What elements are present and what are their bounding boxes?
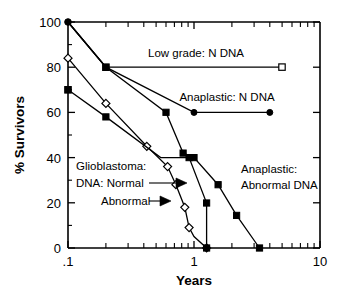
chart-svg: 100 80 60 40 20 0 .1 1 10 Years % Surviv… <box>0 0 345 303</box>
y-axis-title: % Survivors <box>12 96 27 174</box>
marker-filled-square <box>103 114 109 120</box>
marker-filled-circle <box>267 109 273 115</box>
leader-arrow-normal <box>149 178 187 188</box>
y-tick-label-100: 100 <box>39 15 61 30</box>
x-tick-label-point1: .1 <box>63 254 74 269</box>
x-tick-labels: .1 1 10 <box>63 254 328 269</box>
marker-filled-square <box>163 109 169 115</box>
annotation-anaplastic-abnormal: Anaplastic: Abnormal DNA <box>241 163 318 191</box>
annotation-glioblastoma-title: Glioblastoma: <box>76 160 146 172</box>
marker-filled-square <box>65 87 72 94</box>
survival-chart-figure: 100 80 60 40 20 0 .1 1 10 Years % Surviv… <box>0 0 345 303</box>
marker-filled-square <box>186 155 192 161</box>
x-tick-label-10: 10 <box>313 254 327 269</box>
arrowhead-icon <box>176 178 187 188</box>
annotation-anaplastic-n-dna: Anaplastic: N DNA <box>179 91 275 103</box>
annotation-glioblastoma-normal-label: DNA: Normal <box>76 177 144 189</box>
x-axis-title: Years <box>176 273 212 288</box>
y-tick-labels: 100 80 60 40 20 0 <box>39 15 61 256</box>
annotation-anaplastic-abnormal-line2: Abnormal DNA <box>241 179 318 191</box>
marker-filled-square <box>103 64 110 71</box>
marker-filled-square <box>180 150 186 156</box>
annotation-glioblastoma-abnormal-label: Abnormal <box>101 195 150 207</box>
marker-filled-square <box>204 200 210 206</box>
y-tick-label-0: 0 <box>54 241 61 256</box>
y-tick-label-40: 40 <box>47 151 61 166</box>
annotation-low-grade-label: Low grade: N DNA <box>148 47 244 59</box>
y-tick-label-20: 20 <box>47 196 61 211</box>
marker-open-diamond <box>185 224 193 232</box>
arrowhead-icon <box>160 196 171 206</box>
annotation-anaplastic-abnormal-line1: Anaplastic: <box>241 163 297 175</box>
annotation-low-grade: Low grade: N DNA <box>148 47 244 59</box>
y-tick-label-80: 80 <box>47 60 61 75</box>
y-tick-label-60: 60 <box>47 105 61 120</box>
marker-open-diamond <box>181 203 189 211</box>
x-tick-label-1: 1 <box>190 254 197 269</box>
marker-open-square <box>279 64 285 70</box>
marker-filled-circle <box>191 109 197 115</box>
marker-filled-square <box>204 245 210 251</box>
leader-arrow-abnormal <box>149 196 171 206</box>
marker-filled-square <box>234 212 240 218</box>
annotation-anaplastic-n-dna-label: Anaplastic: N DNA <box>179 91 275 103</box>
marker-filled-square <box>256 245 262 251</box>
marker-filled-square <box>215 182 221 188</box>
